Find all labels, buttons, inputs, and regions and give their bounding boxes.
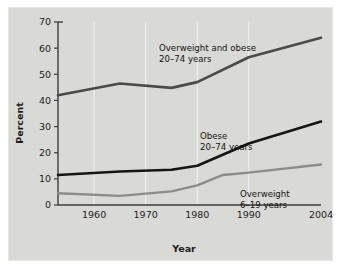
line-chart: 010203040506070 19601970198019902004 Ove… — [9, 8, 334, 262]
y-axis-ticks: 010203040506070 — [39, 16, 58, 210]
x-tick-label: 1980 — [185, 209, 209, 220]
annot-obese-line2: 20–74 years — [200, 142, 253, 152]
y-tick-label: 60 — [39, 43, 51, 54]
y-tick-label: 20 — [39, 147, 51, 158]
x-tick-label: 1990 — [237, 209, 261, 220]
plot-area: 010203040506070 19601970198019902004 Ove… — [9, 8, 334, 262]
y-tick-label: 10 — [39, 173, 51, 184]
y-tick-label: 70 — [39, 16, 51, 27]
y-tick-label: 50 — [39, 69, 51, 80]
x-tick-label: 1960 — [82, 209, 106, 220]
annot-overweight-line1: Overweight — [240, 189, 290, 199]
annot-obese-line1: Obese — [200, 131, 227, 141]
x-axis-ticks: 19601970198019902004 — [82, 209, 333, 220]
x-tick-label: 2004 — [309, 209, 333, 220]
y-tick-label: 30 — [39, 121, 51, 132]
y-tick-label: 40 — [39, 95, 51, 106]
annot-overweight: Overweight6–19 years — [240, 189, 290, 210]
annot-overweight-line2: 6–19 years — [240, 200, 288, 210]
annot-overweight-and-obese-line2: 20–74 years — [159, 54, 212, 64]
annot-obese: Obese20–74 years — [200, 131, 253, 152]
x-tick-label: 1970 — [134, 209, 158, 220]
y-tick-label: 0 — [45, 199, 51, 210]
series-line-1 — [58, 122, 321, 175]
y-axis-title: Percent — [14, 102, 25, 144]
annot-overweight-and-obese-line1: Overweight and obese — [159, 43, 256, 53]
chart-figure: 010203040506070 19601970198019902004 Ove… — [8, 7, 333, 261]
x-axis-title: Year — [171, 243, 196, 254]
